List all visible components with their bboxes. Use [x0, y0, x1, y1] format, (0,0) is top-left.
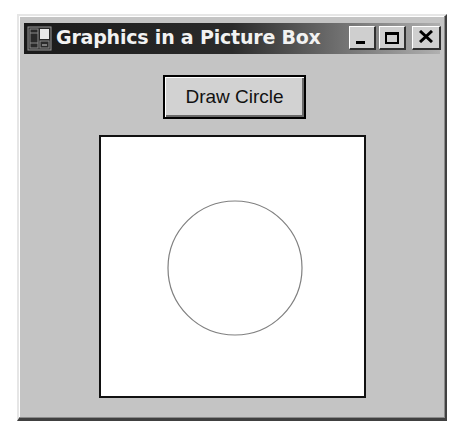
close-icon: [419, 29, 433, 47]
circle-drawing: [101, 137, 364, 396]
maximize-button[interactable]: [379, 26, 406, 50]
app-window: Graphics in a Picture Box Draw Circle: [17, 14, 447, 421]
maximize-icon: [385, 32, 399, 44]
close-button[interactable]: [412, 26, 441, 50]
app-icon[interactable]: [27, 26, 52, 51]
title-bar[interactable]: Graphics in a Picture Box: [24, 23, 440, 54]
draw-circle-button[interactable]: Draw Circle: [163, 75, 306, 119]
window-title: Graphics in a Picture Box: [56, 26, 321, 48]
minimize-icon: [356, 41, 365, 44]
picture-box: [99, 135, 366, 398]
minimize-button[interactable]: [349, 26, 376, 50]
